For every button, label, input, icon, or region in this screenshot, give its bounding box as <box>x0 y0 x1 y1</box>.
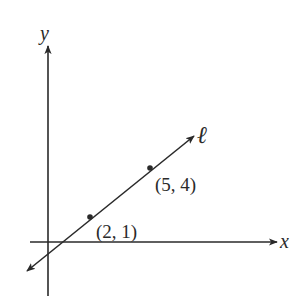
line-l-label: ℓ <box>197 122 207 148</box>
point-2-1 <box>87 214 93 220</box>
point-5-4 <box>147 165 153 171</box>
y-axis-label: y <box>38 22 49 45</box>
line-l <box>27 136 194 271</box>
coordinate-diagram: y x ℓ (2, 1) (5, 4) <box>0 0 305 298</box>
x-axis-label: x <box>279 230 289 252</box>
point-2-1-label: (2, 1) <box>96 221 137 243</box>
point-5-4-label: (5, 4) <box>155 174 196 196</box>
